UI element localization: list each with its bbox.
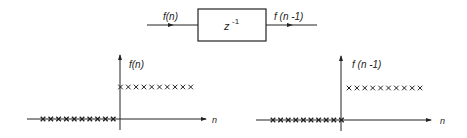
input-label: f(n)	[163, 11, 178, 22]
block-label-base: z	[223, 20, 230, 32]
delay-diagram: f(n) f (n -1) z -1 f(n) n f (n -1) n	[0, 0, 467, 138]
y-axis-label: f(n)	[129, 59, 144, 70]
sample-x-icon	[173, 85, 178, 90]
plot-right: f (n -1) n	[256, 56, 445, 131]
sample-x-icon	[157, 85, 162, 90]
sample-x-icon	[126, 85, 131, 90]
sample-x-icon	[402, 86, 407, 91]
x-axis-label: n	[440, 116, 445, 126]
sample-x-icon	[394, 86, 399, 91]
sample-x-icon	[363, 86, 368, 91]
sample-x-icon	[181, 85, 186, 90]
sample-x-icon	[188, 85, 193, 90]
block-label-exp: -1	[232, 17, 240, 26]
y-axis-label: f (n -1)	[352, 59, 381, 70]
sample-x-icon	[347, 86, 352, 91]
block-diagram: f(n) f (n -1) z -1	[147, 9, 317, 41]
sample-x-icon	[386, 86, 391, 91]
sample-x-icon	[165, 85, 170, 90]
sample-x-icon	[149, 85, 154, 90]
sample-x-icon	[134, 85, 139, 90]
samples-one	[347, 86, 423, 91]
x-axis-label: n	[212, 115, 217, 125]
input-arrow-icon	[168, 23, 174, 27]
output-label: f (n -1)	[274, 11, 303, 22]
sample-x-icon	[410, 86, 415, 91]
plot-left: f(n) n	[27, 55, 217, 130]
sample-x-icon	[355, 86, 360, 91]
output-arrow-icon	[287, 23, 293, 27]
sample-x-icon	[418, 86, 423, 91]
sample-x-icon	[370, 86, 375, 91]
sample-x-icon	[142, 85, 147, 90]
samples-one	[118, 85, 193, 90]
sample-x-icon	[378, 86, 383, 91]
